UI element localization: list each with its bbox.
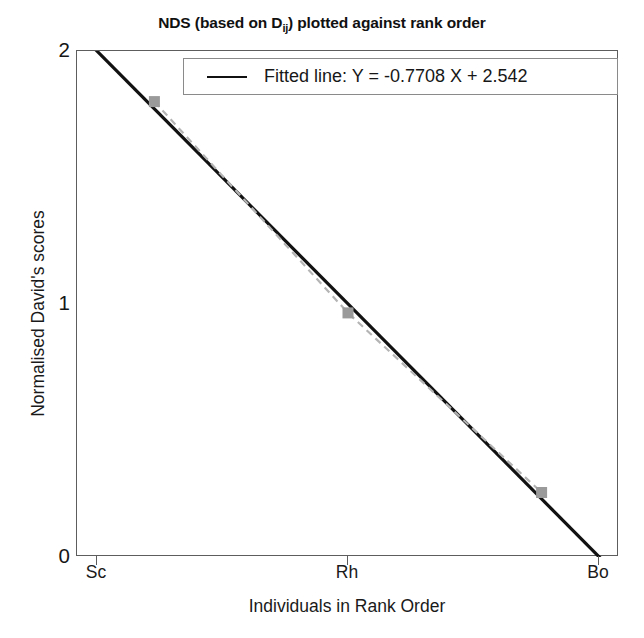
data-point-marker: [149, 96, 160, 107]
x-tick-label-sc: Sc: [51, 562, 141, 583]
data-point-marker: [536, 487, 547, 498]
chart-title-main: NDS (based on D: [158, 14, 282, 31]
y-tick-label-2: 2: [0, 38, 70, 62]
chart-title: NDS (based on Dij) plotted against rank …: [0, 14, 644, 34]
legend-label-fitted-line: Fitted line: Y = -0.7708 X + 2.542: [264, 66, 528, 87]
x-tick-label-bo: Bo: [553, 562, 643, 583]
chart-title-tail: ) plotted against rank order: [288, 14, 486, 31]
chart-figure: NDS (based on Dij) plotted against rank …: [0, 0, 644, 638]
data-point-marker: [343, 307, 354, 318]
x-tick-label-rh: Rh: [302, 562, 392, 583]
legend-line-swatch: [207, 76, 247, 78]
legend: Fitted line: Y = -0.7708 X + 2.542: [183, 58, 618, 95]
y-axis-label: Normalised David's scores: [28, 64, 49, 564]
fitted-line: [77, 51, 619, 557]
plot-area: [76, 50, 618, 556]
data-series-line: [154, 102, 541, 493]
plot-svg: [77, 51, 619, 557]
x-axis-label: Individuals in Rank Order: [76, 596, 618, 617]
